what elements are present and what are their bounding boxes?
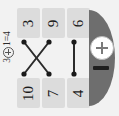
cell-bottom-1-label: 7 [46, 89, 61, 97]
oplus-icon [3, 47, 14, 58]
equation-result: 4 [3, 31, 13, 36]
cell-top-2[interactable]: 6 [67, 8, 90, 38]
cell-bottom-0[interactable]: 10 [17, 78, 40, 108]
control-panel-semicircle [89, 10, 115, 106]
cell-top-1-label: 9 [46, 19, 61, 27]
cell-top-1[interactable]: 9 [42, 8, 65, 38]
equation-label: 3 1 = 4 [1, 26, 15, 68]
screenshot-canvas: 3 1 = 4 3 9 6 10 7 4 [0, 0, 119, 116]
cell-bottom-2[interactable]: 4 [67, 78, 90, 108]
equation-equals-sign: = [3, 36, 13, 41]
equation-right-operand: 1 [3, 41, 13, 46]
cell-top-0-label: 3 [21, 19, 36, 27]
plus-icon[interactable] [90, 36, 114, 60]
cell-top-2-label: 6 [71, 19, 86, 27]
cell-bottom-0-label: 10 [21, 86, 36, 101]
cell-top-0[interactable]: 3 [17, 8, 40, 38]
equation-left-operand: 3 [3, 58, 13, 63]
minus-icon[interactable] [93, 66, 109, 70]
number-grid: 3 9 6 10 7 4 [17, 8, 91, 108]
cell-bottom-1[interactable]: 7 [42, 78, 65, 108]
cell-bottom-2-label: 4 [71, 89, 86, 97]
